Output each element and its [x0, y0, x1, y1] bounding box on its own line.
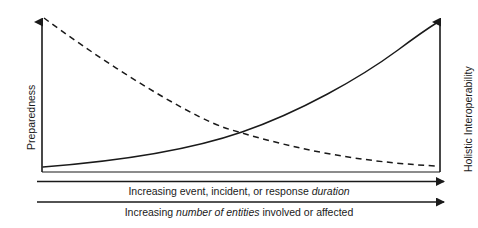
caption-duration-text-plain: Increasing event, incident, or response — [128, 185, 311, 197]
holistic-interoperability-curve — [43, 22, 438, 167]
caption-entities-text-plain-1: Increasing — [125, 206, 176, 218]
caption-duration-text-italic: duration — [312, 185, 350, 197]
left-axis-label: Preparedness — [26, 0, 37, 150]
caption-entities: Increasing number of entities involved o… — [0, 207, 478, 218]
preparedness-curve — [44, 18, 436, 166]
caption-entities-text-italic: number of entities — [176, 206, 259, 218]
caption-entities-text-plain-2: involved or affected — [260, 206, 354, 218]
figure-container: Preparedness Holistic Interoperability I… — [0, 0, 478, 228]
right-axis-label: Holistic Interoperability — [463, 2, 474, 172]
caption-duration: Increasing event, incident, or response … — [0, 186, 478, 197]
